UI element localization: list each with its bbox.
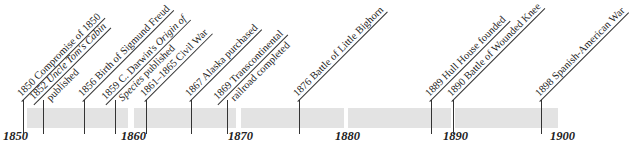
- axis-label-1880: 1880: [335, 129, 360, 144]
- timeline-bar-segment: [241, 108, 344, 128]
- timeline: 1850 1860 1870 1880 1890 1900 1850 Compr…: [0, 0, 633, 156]
- event-text-line2: Species published: [106, 21, 198, 113]
- event-text: 1876 Battle of Little Bighorn: [289, 3, 388, 102]
- event-label-1890: 1890 Battle of Wounded Knee: [443, 0, 546, 102]
- event-label-1876: 1876 Battle of Little Bighorn: [289, 3, 388, 102]
- event-tick-1867: [191, 100, 192, 134]
- event-text: 1890 Battle of Wounded Knee: [443, 0, 546, 102]
- event-text: 1889 Hull House founded: [421, 12, 511, 102]
- event-text: 1898 Spanish-American War: [531, 3, 630, 102]
- event-tick-1898: [541, 100, 542, 134]
- event-tick-1856: [84, 100, 85, 134]
- axis-label-1900: 1900: [550, 129, 575, 144]
- timeline-bar-segment: [348, 108, 451, 128]
- timeline-bar-segment: [455, 108, 558, 128]
- axis-label-1890: 1890: [443, 129, 468, 144]
- axis-label-1850: 1850: [3, 129, 28, 144]
- axis-label-1860: 1860: [121, 129, 146, 144]
- event-text: 1852 Uncle Tom's Cabin: [25, 19, 111, 105]
- event-tick-1850: [23, 100, 24, 134]
- timeline-bar-segment: [134, 108, 236, 128]
- event-label-1889: 1889 Hull House founded: [421, 12, 511, 102]
- event-tick-1876: [299, 100, 300, 134]
- event-tick-1889: [431, 100, 432, 134]
- axis-label-1870: 1870: [228, 129, 253, 144]
- event-tick-1861: [146, 100, 147, 134]
- event-tick-1890: [453, 100, 454, 134]
- event-label-1898: 1898 Spanish-American War: [531, 3, 630, 102]
